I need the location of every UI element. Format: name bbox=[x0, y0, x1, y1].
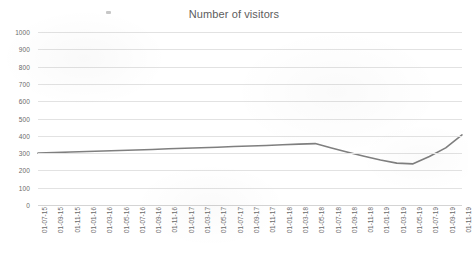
x-tick-label-01-09-17: 01-09-17 bbox=[253, 207, 260, 233]
x-tick-label-01-07-19: 01-07-19 bbox=[432, 207, 439, 233]
x-tick-label-01-11-18: 01-11-18 bbox=[367, 207, 374, 233]
y-tick-label-900: 900 bbox=[19, 46, 30, 53]
plot-area bbox=[38, 32, 462, 205]
x-tick-label-01-01-19: 01-01-19 bbox=[383, 207, 390, 233]
x-tick-label-01-03-16: 01-03-16 bbox=[106, 207, 113, 233]
gridline-100 bbox=[38, 188, 462, 189]
gridline-1000 bbox=[38, 32, 462, 33]
y-tick-label-200: 200 bbox=[19, 167, 30, 174]
x-tick-label-01-07-15: 01-07-15 bbox=[41, 207, 48, 233]
x-tick-label-01-09-19: 01-09-19 bbox=[449, 207, 456, 233]
gridline-900 bbox=[38, 49, 462, 50]
gridline-500 bbox=[38, 119, 462, 120]
gridline-300 bbox=[38, 153, 462, 154]
x-tick-label-01-11-16: 01-11-16 bbox=[171, 207, 178, 233]
y-tick-label-500: 500 bbox=[19, 115, 30, 122]
gridline-200 bbox=[38, 170, 462, 171]
x-tick-label-01-11-17: 01-11-17 bbox=[269, 207, 276, 233]
gridline-800 bbox=[38, 67, 462, 68]
x-tick-label-01-05-19: 01-05-19 bbox=[416, 207, 423, 233]
x-tick-label-01-07-17: 01-07-17 bbox=[237, 207, 244, 233]
y-tick-label-0: 0 bbox=[26, 202, 30, 209]
y-tick-label-1000: 1000 bbox=[15, 29, 30, 36]
y-tick-label-700: 700 bbox=[19, 80, 30, 87]
y-axis: 10009008007006005004003002001000 bbox=[0, 32, 34, 205]
x-tick-label-01-03-17: 01-03-17 bbox=[204, 207, 211, 233]
x-tick-label-01-01-18: 01-01-18 bbox=[286, 207, 293, 233]
gridline-600 bbox=[38, 101, 462, 102]
gridline-0 bbox=[38, 205, 462, 206]
chart-title: Number of visitors bbox=[0, 8, 468, 20]
x-axis: 01-07-1501-09-1501-11-1501-01-1601-03-16… bbox=[38, 207, 462, 261]
x-tick-label-01-09-18: 01-09-18 bbox=[351, 207, 358, 233]
x-tick-label-01-09-16: 01-09-16 bbox=[155, 207, 162, 233]
x-tick-label-01-05-17: 01-05-17 bbox=[220, 207, 227, 233]
y-tick-label-800: 800 bbox=[19, 63, 30, 70]
x-tick-label-01-05-16: 01-05-16 bbox=[123, 207, 130, 233]
x-tick-label-01-11-15: 01-11-15 bbox=[74, 207, 81, 233]
y-tick-label-400: 400 bbox=[19, 132, 30, 139]
y-tick-label-100: 100 bbox=[19, 184, 30, 191]
scan-smudge-artifact bbox=[106, 11, 111, 14]
x-tick-label-01-03-18: 01-03-18 bbox=[302, 207, 309, 233]
x-tick-label-01-05-18: 01-05-18 bbox=[318, 207, 325, 233]
x-tick-label-01-07-16: 01-07-16 bbox=[139, 207, 146, 233]
y-tick-label-300: 300 bbox=[19, 150, 30, 157]
x-tick-label-01-01-16: 01-01-16 bbox=[90, 207, 97, 233]
y-tick-label-600: 600 bbox=[19, 98, 30, 105]
line-series-visitors bbox=[38, 135, 462, 164]
x-tick-label-01-03-19: 01-03-19 bbox=[400, 207, 407, 233]
x-tick-label-01-01-17: 01-01-17 bbox=[188, 207, 195, 233]
x-tick-label-01-11-19: 01-11-19 bbox=[465, 207, 472, 233]
x-tick-label-01-09-15: 01-09-15 bbox=[57, 207, 64, 233]
x-tick-label-01-07-18: 01-07-18 bbox=[335, 207, 342, 233]
gridline-400 bbox=[38, 136, 462, 137]
gridline-700 bbox=[38, 84, 462, 85]
